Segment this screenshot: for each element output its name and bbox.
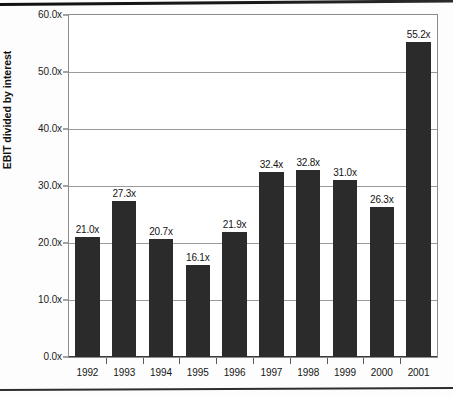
y-axis-tick-label: 0.0x [6, 351, 62, 362]
bar-value-label: 21.9x [216, 219, 253, 230]
x-axis-tick-mark [216, 358, 217, 364]
x-axis-tick-mark [363, 358, 364, 364]
y-axis-tick-label: 50.0x [6, 66, 62, 77]
bar-1998[interactable] [296, 170, 320, 357]
bar-value-label: 32.8x [290, 157, 327, 168]
bar-slot: 32.8x [290, 15, 327, 357]
bar-slot: 27.3x [106, 15, 143, 357]
bar-1995[interactable] [186, 265, 210, 357]
bar-1992[interactable] [75, 237, 99, 357]
x-axis-tick-label-2001: 2001 [389, 367, 449, 378]
bar-1994[interactable] [149, 239, 173, 357]
x-axis-tick-mark [106, 358, 107, 364]
y-axis-tick-label: 40.0x [6, 123, 62, 134]
bar-slot: 16.1x [179, 15, 216, 357]
bar-1997[interactable] [259, 172, 283, 357]
bar-group: 21.0x27.3x20.7x16.1x21.9x32.4x32.8x31.0x… [69, 15, 437, 357]
bar-value-label: 32.4x [253, 159, 290, 170]
y-axis-tick-mark [63, 300, 68, 301]
bar-1996[interactable] [222, 232, 246, 357]
bar-slot: 55.2x [400, 15, 437, 357]
y-axis-tick-mark [63, 357, 68, 358]
bar-value-label: 21.0x [69, 224, 106, 235]
y-axis-tick-mark [63, 72, 68, 73]
bar-1993[interactable] [112, 201, 136, 357]
x-axis-tick-mark [179, 358, 180, 364]
bar-value-label: 20.7x [143, 226, 180, 237]
bar-slot: 31.0x [327, 15, 364, 357]
bar-2001[interactable] [406, 42, 430, 357]
y-axis-tick-label: 10.0x [6, 294, 62, 305]
x-axis-tick-mark [290, 358, 291, 364]
bar-slot: 26.3x [363, 15, 400, 357]
scan-artifact-line-top [0, 0, 453, 6]
bar-value-label: 55.2x [400, 29, 437, 40]
bar-2000[interactable] [370, 207, 394, 357]
scan-artifact-line-bottom [0, 387, 453, 391]
y-axis-tick-mark [63, 186, 68, 187]
y-axis-tick-mark [63, 129, 68, 130]
x-axis-tick-mark [143, 358, 144, 364]
y-axis-tick-mark [63, 243, 68, 244]
y-axis-tick-label: 60.0x [6, 9, 62, 20]
bar-1999[interactable] [333, 180, 357, 357]
bar-slot: 21.9x [216, 15, 253, 357]
y-axis-tick-label: 30.0x [6, 180, 62, 191]
y-axis-tick-label: 20.0x [6, 237, 62, 248]
bar-value-label: 31.0x [327, 167, 364, 178]
x-axis-tick-mark [400, 358, 401, 364]
bar-value-label: 26.3x [363, 194, 400, 205]
y-axis-tick-mark [63, 15, 68, 16]
bar-value-label: 27.3x [106, 188, 143, 199]
bar-slot: 32.4x [253, 15, 290, 357]
bar-slot: 21.0x [69, 15, 106, 357]
chart-page: EBIT divided by interest 0.0x10.0x20.0x3… [0, 0, 453, 397]
x-axis-tick-mark [327, 358, 328, 364]
bar-slot: 20.7x [143, 15, 180, 357]
x-axis-tick-mark [253, 358, 254, 364]
y-axis-title: EBIT divided by interest [1, 25, 13, 195]
bar-value-label: 16.1x [179, 252, 216, 263]
